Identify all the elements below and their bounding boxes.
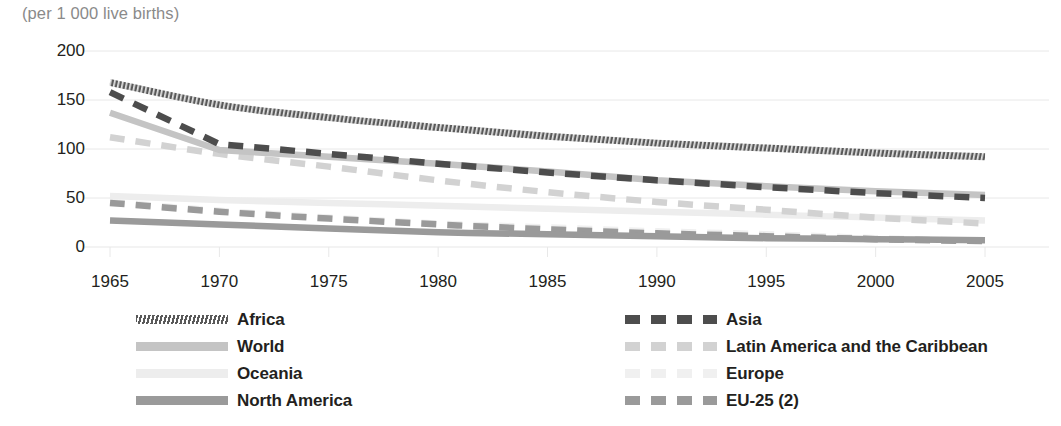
legend-swatch-asia-icon [625, 315, 717, 324]
legend-label-europe: Europe [726, 364, 784, 384]
chart-legend: AfricaWorldOceaniaNorth America AsiaLati… [0, 306, 1061, 422]
legend-item-eu25[interactable]: EU-25 (2) [625, 387, 988, 414]
x-axis-tick-1965: 1965 [75, 272, 145, 292]
x-axis-tick-1985: 1985 [513, 272, 583, 292]
x-axis-tick-1970: 1970 [184, 272, 254, 292]
chart-unit-subtitle: (per 1 000 live births) [22, 4, 179, 23]
x-axis-tick-1980: 1980 [403, 272, 473, 292]
legend-item-oceania[interactable]: Oceania [136, 360, 352, 387]
x-axis-tick-1975: 1975 [294, 272, 364, 292]
legend-item-world[interactable]: World [136, 333, 352, 360]
legend-swatch-africa-icon [136, 315, 228, 324]
legend-column-left: AfricaWorldOceaniaNorth America [136, 306, 352, 414]
legend-label-eu25: EU-25 (2) [726, 391, 799, 411]
x-axis-tick-2005: 2005 [950, 272, 1020, 292]
series-line-north-america [110, 221, 985, 241]
x-axis-tick-labels: 196519701975198019851990199520002005 [0, 272, 1061, 298]
legend-label-latin-america: Latin America and the Caribbean [726, 337, 988, 357]
plot-area [0, 40, 1061, 270]
infant-mortality-line-chart: (per 1 000 live births) 200150100500 196… [0, 0, 1061, 426]
legend-label-world: World [237, 337, 284, 357]
legend-label-oceania: Oceania [237, 364, 302, 384]
x-axis-tick-1995: 1995 [731, 272, 801, 292]
legend-label-north-america: North America [237, 391, 352, 411]
series-line-oceania [110, 196, 985, 221]
legend-item-africa[interactable]: Africa [136, 306, 352, 333]
legend-item-latin-america[interactable]: Latin America and the Caribbean [625, 333, 988, 360]
legend-swatch-oceania-icon [136, 369, 228, 378]
legend-item-north-america[interactable]: North America [136, 387, 352, 414]
legend-swatch-latin-america-icon [625, 342, 717, 351]
legend-label-asia: Asia [726, 310, 762, 330]
legend-item-asia[interactable]: Asia [625, 306, 988, 333]
x-axis-tick-1990: 1990 [622, 272, 692, 292]
legend-item-europe[interactable]: Europe [625, 360, 988, 387]
legend-swatch-europe-icon [625, 369, 717, 378]
legend-swatch-world-icon [136, 342, 228, 351]
chart-canvas [0, 40, 1061, 270]
x-axis-tick-2000: 2000 [841, 272, 911, 292]
legend-label-africa: Africa [237, 310, 285, 330]
legend-column-right: AsiaLatin America and the CaribbeanEurop… [625, 306, 988, 414]
legend-swatch-eu25-icon [625, 396, 717, 405]
legend-swatch-north-america-icon [136, 396, 228, 405]
